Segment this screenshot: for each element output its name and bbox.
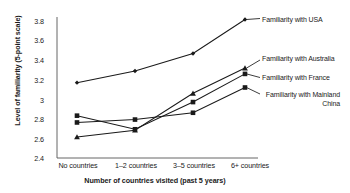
- series-line: [77, 20, 245, 83]
- series-3: [75, 85, 248, 125]
- x-axis-title: Number of countries visited (past 5 year…: [40, 176, 270, 185]
- chart-figure: Level of familiarity (5-point scale) 3.8…: [0, 0, 350, 193]
- annotation-leader-line-1: [247, 60, 261, 68]
- data-point-marker: [133, 69, 137, 73]
- data-point-marker: [133, 117, 138, 122]
- series-0: [75, 17, 247, 85]
- x-tick-label: 6+ countries: [212, 161, 288, 170]
- data-point-marker: [75, 80, 79, 84]
- series-annotation-france: Familiarity with France: [262, 73, 330, 82]
- series-layer: [74, 17, 260, 139]
- series-annotation-usa: Familiarity with USA: [262, 15, 323, 24]
- annotation-leader-line-2: [247, 74, 261, 78]
- series-1: [74, 65, 248, 139]
- data-point-marker: [191, 110, 196, 115]
- data-point-marker: [75, 120, 80, 125]
- annotation-leader-line-0: [247, 19, 261, 20]
- series-line: [77, 68, 245, 137]
- series-annotation-australia: Familiarity with Australia: [262, 54, 334, 63]
- data-point-marker: [190, 90, 196, 95]
- data-point-marker: [191, 100, 196, 105]
- series-annotation-mainland-china: Familiarity with Mainland China: [262, 90, 340, 108]
- data-point-marker: [133, 127, 138, 132]
- series-2: [75, 72, 248, 132]
- annotation-leader-line-3: [247, 88, 261, 95]
- data-point-marker: [75, 113, 80, 118]
